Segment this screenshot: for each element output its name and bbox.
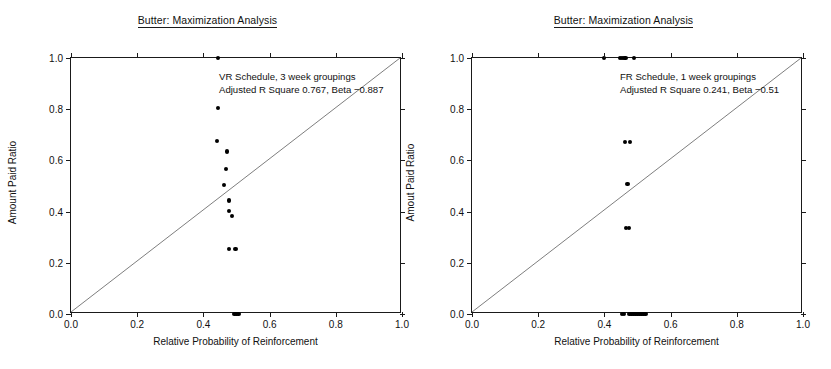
y-tick: [66, 58, 71, 59]
y-tick: [467, 263, 472, 264]
x-axis-title-left: Relative Probability of Reinforcement: [71, 336, 400, 347]
y-tick: [467, 109, 472, 110]
x-tick: [472, 312, 473, 317]
annotation-right-line2: Adjusted R Square 0.241, Beta −0.51: [620, 83, 779, 96]
y-tick-right: [801, 109, 806, 110]
y-tick: [467, 212, 472, 213]
data-point: [623, 56, 627, 60]
data-point: [225, 149, 229, 153]
y-tick-label: 0.6: [450, 155, 464, 166]
x-tick-label: 0.4: [196, 319, 210, 330]
y-tick-right: [801, 263, 806, 264]
chart-panel-left: Butter: Maximization Analysis 0.00.20.40…: [0, 0, 415, 369]
y-tick: [66, 160, 71, 161]
annotation-left-line2: Adjusted R Square 0.767, Beta −0.887: [219, 83, 384, 96]
x-tick-label: 0.8: [730, 319, 744, 330]
y-tick-right: [400, 212, 405, 213]
x-tick-top: [203, 53, 204, 58]
x-tick-label: 0.4: [597, 319, 611, 330]
plot-area-left: 0.00.20.40.60.81.00.00.20.40.60.81.0 VR …: [70, 57, 401, 313]
y-tick-right: [400, 314, 405, 315]
annotation-right-line1: FR Schedule, 1 week groupings: [620, 70, 779, 83]
y-tick: [66, 109, 71, 110]
y-axis-title-left: Amount Paid Ratio: [7, 141, 18, 224]
x-tick: [538, 312, 539, 317]
x-tick-label: 0.0: [465, 319, 479, 330]
y-tick-label: 0.6: [49, 155, 63, 166]
data-point: [236, 312, 240, 316]
y-tick: [467, 58, 472, 59]
x-tick-label: 0.6: [664, 319, 678, 330]
x-tick-label: 1.0: [395, 319, 409, 330]
x-tick-label: 0.6: [263, 319, 277, 330]
y-tick-label: 0.8: [49, 104, 63, 115]
x-tick-label: 1.0: [796, 319, 810, 330]
data-point: [643, 312, 647, 316]
y-axis-title-right: Amout Paid Ratio: [405, 144, 416, 222]
chart-title-left-text: Butter: Maximization Analysis: [138, 14, 277, 28]
y-tick-label: 0.4: [49, 206, 63, 217]
y-tick-right: [400, 109, 405, 110]
x-tick: [137, 312, 138, 317]
y-tick-right: [801, 314, 806, 315]
chart-title-right-text: Butter: Maximization Analysis: [554, 14, 693, 28]
y-tick-label: 0.0: [49, 309, 63, 320]
x-tick: [671, 312, 672, 317]
x-tick-top: [604, 53, 605, 58]
figure-root: Butter: Maximization Analysis 0.00.20.40…: [0, 0, 831, 369]
y-tick-label: 1.0: [49, 53, 63, 64]
y-tick: [66, 263, 71, 264]
annotation-left: VR Schedule, 3 week groupings Adjusted R…: [219, 70, 384, 96]
y-tick-right: [400, 58, 405, 59]
y-tick-label: 0.2: [49, 257, 63, 268]
y-tick-right: [801, 212, 806, 213]
x-tick-top: [137, 53, 138, 58]
x-tick: [71, 312, 72, 317]
y-tick-label: 0.8: [450, 104, 464, 115]
x-tick-label: 0.0: [64, 319, 78, 330]
x-tick-label: 0.8: [329, 319, 343, 330]
x-tick: [604, 312, 605, 317]
identity-reference-line-left: [71, 58, 400, 312]
x-tick-top: [336, 53, 337, 58]
plot-area-right: 0.00.20.40.60.81.00.00.20.40.60.81.0 FR …: [471, 57, 802, 313]
x-tick: [737, 312, 738, 317]
data-point: [625, 182, 629, 186]
chart-title-right: Butter: Maximization Analysis: [416, 14, 831, 26]
y-tick-right: [400, 263, 405, 264]
chart-title-left: Butter: Maximization Analysis: [0, 14, 415, 26]
y-tick-right: [801, 58, 806, 59]
data-point: [222, 183, 226, 187]
x-tick-label: 0.2: [130, 319, 144, 330]
annotation-left-line1: VR Schedule, 3 week groupings: [219, 70, 384, 83]
x-tick: [203, 312, 204, 317]
y-tick-right: [400, 160, 405, 161]
y-tick: [467, 314, 472, 315]
data-point: [227, 198, 231, 202]
annotation-right: FR Schedule, 1 week groupings Adjusted R…: [620, 70, 779, 96]
data-point: [622, 312, 626, 316]
y-tick-label: 0.0: [450, 309, 464, 320]
y-tick: [66, 212, 71, 213]
x-tick-top: [472, 53, 473, 58]
y-tick: [467, 160, 472, 161]
identity-reference-line-right: [472, 58, 801, 312]
x-tick-top: [737, 53, 738, 58]
y-tick-label: 0.4: [450, 206, 464, 217]
data-point: [623, 140, 627, 144]
x-tick: [270, 312, 271, 317]
chart-panel-right: Butter: Maximization Analysis 0.00.20.40…: [416, 0, 831, 369]
y-tick: [66, 314, 71, 315]
x-tick-top: [71, 53, 72, 58]
x-tick: [336, 312, 337, 317]
y-tick-label: 0.2: [450, 257, 464, 268]
x-tick-top: [671, 53, 672, 58]
x-tick-top: [538, 53, 539, 58]
x-tick-label: 0.2: [531, 319, 545, 330]
x-tick-top: [270, 53, 271, 58]
y-tick-label: 1.0: [450, 53, 464, 64]
y-tick-right: [801, 160, 806, 161]
x-axis-title-right: Relative Probability of Reinforcement: [472, 336, 801, 347]
data-point: [233, 247, 237, 251]
